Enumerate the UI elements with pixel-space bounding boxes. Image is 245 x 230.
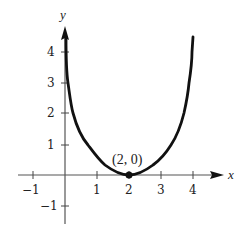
x-axis-arrow-icon [210, 171, 224, 179]
x-tick-label: 1 [93, 183, 101, 197]
chart: x y −1 1 2 3 4 4 3 2 1 −1 (2, 0) [0, 0, 245, 230]
y-tick-label: 1 [47, 138, 55, 152]
vertex-label: (2, 0) [112, 152, 143, 168]
y-tick-label: 3 [47, 76, 55, 90]
y-tick-label: −1 [40, 199, 58, 213]
x-tick-label: 2 [125, 183, 133, 197]
x-tick-label: 4 [189, 183, 197, 197]
y-tick-label: 2 [47, 106, 55, 120]
y-axis-label: y [58, 7, 66, 22]
x-tick-label: 3 [157, 183, 165, 197]
x-tick-label: −1 [22, 183, 40, 197]
y-tick-label: 4 [47, 45, 55, 59]
x-axis-label: x [227, 167, 234, 182]
vertex-point [126, 172, 133, 179]
